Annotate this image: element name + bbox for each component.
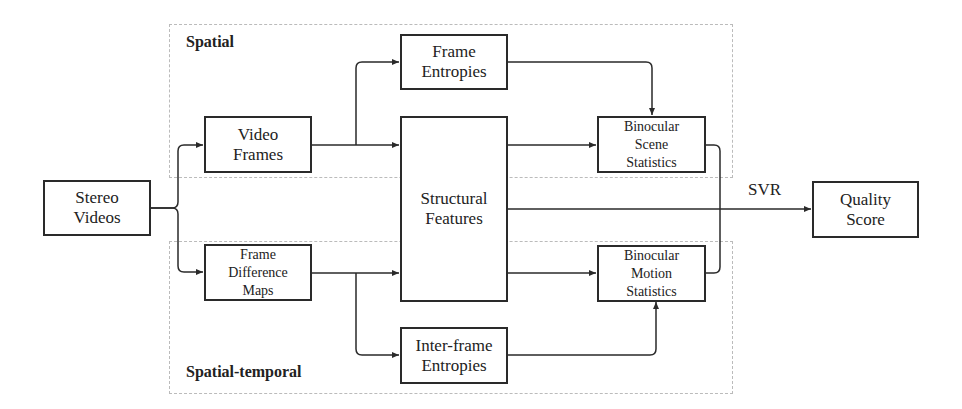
edge-stereo-to-frame-diff: [151, 208, 203, 272]
node-binocular-scene-statistics: Binocular Scene Statistics: [597, 116, 706, 173]
edge-frame-entropies-to-binocular-scene: [508, 62, 652, 115]
svr-label: SVR: [748, 180, 781, 200]
edge-inter-frame-to-binocular-motion: [508, 302, 656, 355]
node-binocular-motion-statistics: Binocular Motion Statistics: [597, 245, 706, 302]
node-video-frames: Video Frames: [204, 116, 312, 173]
node-structural-features: Structural Features: [400, 116, 508, 302]
node-quality-score: Quality Score: [812, 181, 919, 238]
edge-frame-diff-to-inter-frame: [356, 273, 399, 355]
edge-binocular-scene-to-quality: [706, 145, 720, 209]
edge-stereo-to-video-frames: [151, 145, 203, 208]
node-frame-entropies: Frame Entropies: [400, 34, 508, 90]
node-inter-frame-entropies: Inter-frame Entropies: [400, 327, 508, 384]
node-stereo-videos: Stereo Videos: [43, 180, 151, 236]
edge-video-frames-to-frame-entropies: [356, 62, 399, 145]
edge-binocular-motion-to-quality: [706, 209, 720, 273]
node-frame-difference-maps: Frame Difference Maps: [204, 244, 312, 301]
